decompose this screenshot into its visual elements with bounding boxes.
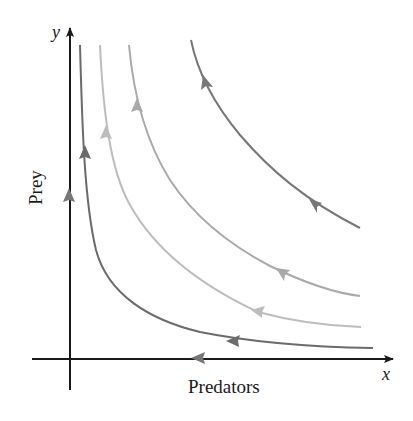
x-axis-variable-label: x — [381, 364, 390, 384]
x-axis-flow-arrow-icon — [191, 352, 205, 364]
y-axis-variable-label: y — [50, 22, 60, 42]
trajectory-curve-3 — [129, 45, 360, 296]
flow-arrow-icon — [251, 306, 265, 318]
axes — [32, 28, 393, 390]
phase-portrait-figure: y x Predators Prey — [0, 0, 413, 421]
flow-arrow-icon — [131, 98, 143, 112]
phase-portrait-svg: y x Predators Prey — [0, 0, 413, 421]
trajectory-curve-1 — [79, 45, 373, 348]
flow-arrow-icon — [79, 145, 91, 159]
y-axis-title: Prey — [25, 170, 46, 205]
x-axis-title: Predators — [188, 376, 260, 397]
y-axis-flow-arrow-icon — [63, 188, 75, 202]
flow-arrow-icon — [100, 125, 112, 139]
trajectory-curve-4 — [191, 40, 360, 228]
trajectory-curve-2 — [100, 45, 361, 327]
